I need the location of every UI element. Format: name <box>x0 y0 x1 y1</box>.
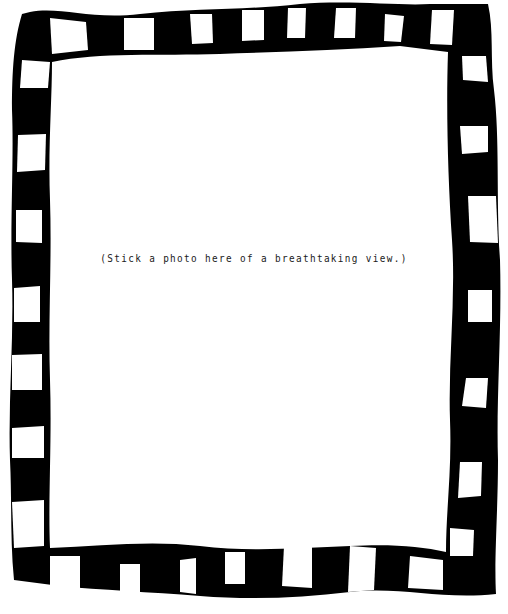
worksheet-page: (Stick a photo here of a breathtaking vi… <box>0 0 508 614</box>
photo-placeholder-area <box>50 62 448 552</box>
photo-instruction-caption: (Stick a photo here of a breathtaking vi… <box>38 252 470 265</box>
